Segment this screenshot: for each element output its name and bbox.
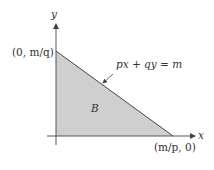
budget-line-label: px + qy = m bbox=[116, 58, 182, 70]
label-pointer bbox=[103, 74, 113, 83]
x-axis-label: x bbox=[198, 129, 204, 141]
y-axis-label: y bbox=[50, 8, 58, 20]
budget-set-diagram: y x (0, m/q) (m/p, 0) px + qy = m B bbox=[0, 0, 214, 170]
x-intercept-label: (m/p, 0) bbox=[154, 141, 196, 153]
region-label: B bbox=[90, 102, 99, 114]
y-intercept-label: (0, m/q) bbox=[12, 46, 54, 58]
